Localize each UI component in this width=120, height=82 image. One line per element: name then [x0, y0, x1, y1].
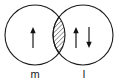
right-spin-down-arrow: [86, 27, 91, 48]
left-spin-up-arrow: [30, 27, 35, 48]
right-spin-up-arrow: [73, 27, 78, 48]
orbital-overlap-diagram: m l: [0, 0, 120, 82]
arrow-head-up-icon: [73, 27, 78, 33]
left-orbital-label: m: [30, 68, 39, 80]
orbital-diagram-canvas: m l: [0, 0, 120, 82]
right-orbital-label: l: [83, 68, 85, 80]
arrow-head-up-icon: [30, 27, 35, 33]
arrow-head-down-icon: [86, 42, 91, 48]
